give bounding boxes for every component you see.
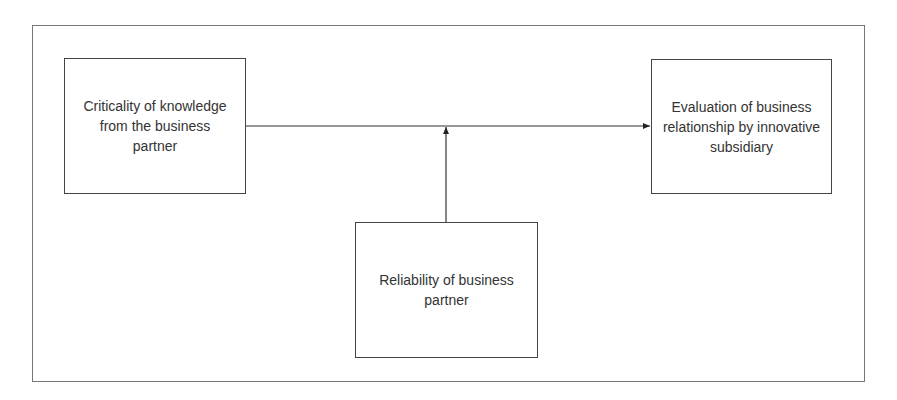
outcome-box: Evaluation of business relationship by i…: [651, 59, 832, 194]
outcome-label: Evaluation of business relationship by i…: [652, 97, 831, 157]
moderator-label: Reliability of business partner: [356, 270, 537, 310]
predictor-box: Criticality of knowledge from the busine…: [64, 58, 246, 194]
predictor-label: Criticality of knowledge from the busine…: [74, 96, 236, 156]
moderator-box: Reliability of business partner: [355, 222, 538, 358]
